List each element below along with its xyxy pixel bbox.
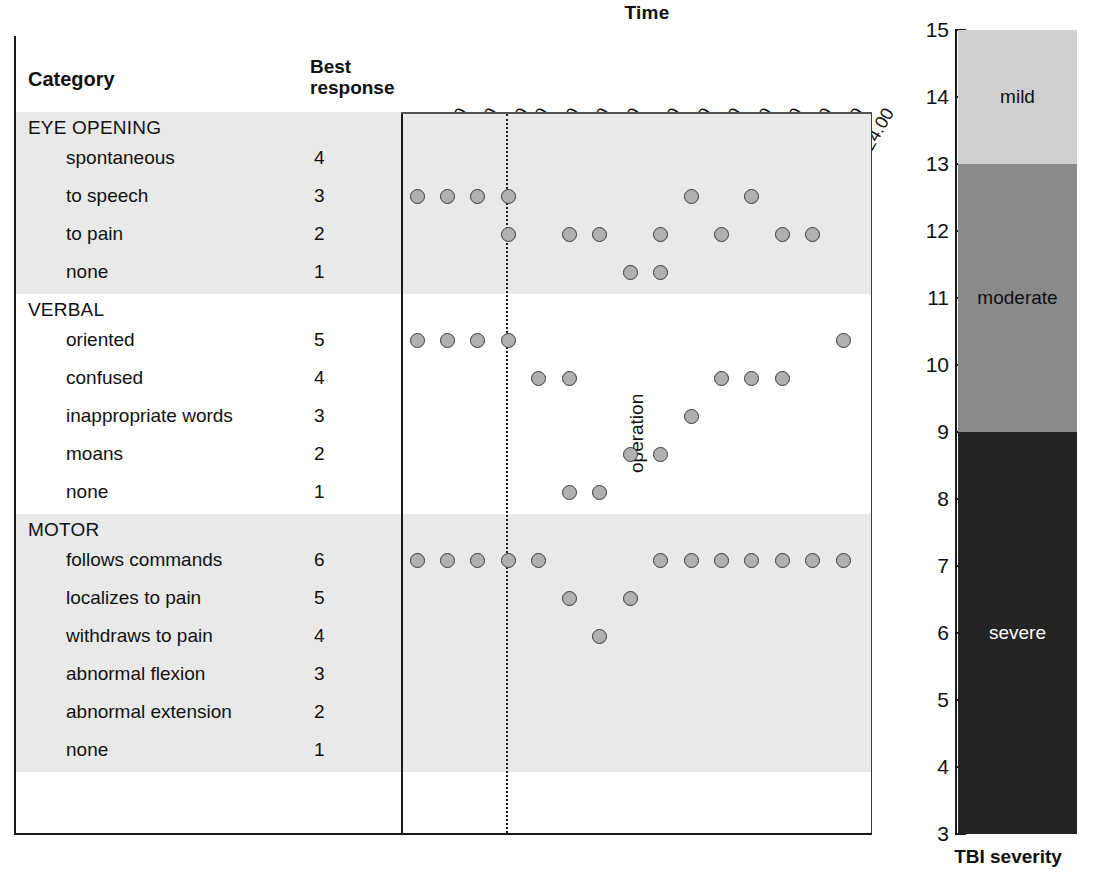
data-point: [714, 553, 729, 568]
severity-segment-label: mild: [958, 87, 1077, 106]
data-point: [531, 553, 546, 568]
data-point: [531, 371, 546, 386]
response-label: oriented: [66, 329, 135, 351]
column-header-best-response: Bestresponse: [310, 56, 394, 99]
response-label: abnormal extension: [66, 701, 232, 723]
response-label: none: [66, 739, 108, 761]
response-label: abnormal flexion: [66, 663, 205, 685]
data-point: [470, 333, 485, 348]
response-score: 6: [314, 549, 325, 571]
response-score: 4: [314, 147, 325, 169]
severity-tick-label: 5: [893, 689, 949, 710]
column-header-category: Category: [28, 68, 115, 91]
severity-tick-label: 7: [893, 555, 949, 576]
response-score: 1: [314, 481, 325, 503]
response-label: none: [66, 481, 108, 503]
data-point: [653, 553, 668, 568]
x-axis-tick-labels: 20.0022.0024.002.004.006.008.0010.0012.0…: [14, 36, 872, 114]
severity-tick-label: 14: [893, 86, 949, 107]
data-point: [775, 553, 790, 568]
data-point: [592, 227, 607, 242]
severity-tick-label: 9: [893, 421, 949, 442]
response-score: 2: [314, 443, 325, 465]
group-heading: VERBAL: [28, 299, 104, 321]
response-label: localizes to pain: [66, 587, 201, 609]
severity-tick-label: 10: [893, 354, 949, 375]
data-point: [653, 447, 668, 462]
response-score: 3: [314, 663, 325, 685]
data-point: [440, 189, 455, 204]
data-point: [562, 485, 577, 500]
response-label: confused: [66, 367, 143, 389]
figure-root: Time 20.0022.0024.002.004.006.008.0010.0…: [0, 0, 1097, 882]
plot-top-rule: [401, 112, 872, 114]
plot-bottom-rule: [14, 833, 872, 835]
severity-tick-label: 8: [893, 488, 949, 509]
data-point: [501, 333, 516, 348]
response-score: 4: [314, 367, 325, 389]
data-point: [562, 591, 577, 606]
response-score: 2: [314, 223, 325, 245]
severity-tick-label: 11: [893, 287, 949, 308]
severity-segment-label: severe: [958, 623, 1077, 642]
response-label: to speech: [66, 185, 148, 207]
response-label: spontaneous: [66, 147, 175, 169]
data-point: [744, 553, 759, 568]
data-point: [805, 553, 820, 568]
data-point: [562, 371, 577, 386]
data-point: [623, 265, 638, 280]
severity-tick-label: 13: [893, 153, 949, 174]
group-heading: MOTOR: [28, 519, 99, 541]
data-point: [744, 189, 759, 204]
response-score: 5: [314, 587, 325, 609]
response-label: follows commands: [66, 549, 222, 571]
response-score: 3: [314, 405, 325, 427]
response-label: none: [66, 261, 108, 283]
gcs-chart: Time 20.0022.0024.002.004.006.008.0010.0…: [14, 28, 872, 834]
data-point: [684, 189, 699, 204]
response-score: 3: [314, 185, 325, 207]
data-point: [592, 485, 607, 500]
severity-tick-label: 6: [893, 622, 949, 643]
data-point: [744, 371, 759, 386]
data-point: [592, 629, 607, 644]
data-point: [440, 553, 455, 568]
data-point: [805, 227, 820, 242]
data-point: [470, 189, 485, 204]
data-point: [836, 553, 851, 568]
data-point: [836, 333, 851, 348]
data-point: [501, 227, 516, 242]
response-label: to pain: [66, 223, 123, 245]
tbi-severity-scale: 1514131211109876543 mildmoderatesevere T…: [893, 28, 1083, 878]
plot-area: [401, 112, 872, 834]
data-point: [684, 409, 699, 424]
data-point: [714, 371, 729, 386]
response-score: 4: [314, 625, 325, 647]
data-point: [714, 227, 729, 242]
severity-tick-label: 3: [893, 823, 949, 844]
header-left-border: [14, 36, 16, 114]
response-score: 1: [314, 261, 325, 283]
response-score: 2: [314, 701, 325, 723]
response-score: 1: [314, 739, 325, 761]
data-point: [684, 553, 699, 568]
data-point: [653, 265, 668, 280]
data-point: [410, 333, 425, 348]
response-score: 5: [314, 329, 325, 351]
data-point: [501, 189, 516, 204]
data-point: [623, 591, 638, 606]
severity-tick-label: 15: [893, 19, 949, 40]
data-point: [440, 333, 455, 348]
data-point: [623, 447, 638, 462]
chart-title: Time: [482, 2, 812, 24]
data-point: [653, 227, 668, 242]
response-label: moans: [66, 443, 123, 465]
data-point: [501, 553, 516, 568]
data-point: [775, 227, 790, 242]
severity-caption: TBI severity: [933, 846, 1083, 868]
data-point: [410, 189, 425, 204]
severity-tick-label: 12: [893, 220, 949, 241]
operation-divider-line: [506, 114, 508, 833]
response-label: inappropriate words: [66, 405, 233, 427]
response-label: withdraws to pain: [66, 625, 213, 647]
